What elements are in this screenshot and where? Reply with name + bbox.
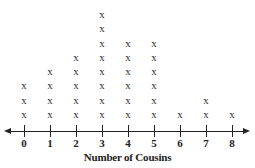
x-mark-icon: x [44,80,56,91]
x-mark-icon: x [122,80,134,91]
tick-7 [206,125,207,137]
x-mark-icon: x [200,95,212,106]
x-mark-icon: x [96,52,108,63]
x-mark-icon: x [122,95,134,106]
x-mark-icon: x [148,66,160,77]
tick-2 [76,125,77,137]
tick-label-1: 1 [43,137,57,149]
x-mark-icon: x [122,38,134,49]
x-mark-icon: x [96,66,108,77]
x-mark-icon: x [226,109,238,120]
x-mark-icon: x [148,52,160,63]
tick-4 [128,125,129,137]
tick-6 [180,125,181,137]
x-mark-icon: x [96,109,108,120]
x-mark-icon: x [18,80,30,91]
tick-label-0: 0 [17,137,31,149]
x-mark-icon: x [148,80,160,91]
x-mark-icon: x [174,109,186,120]
x-mark-icon: x [148,38,160,49]
dot-plot: xxxxxxxxxxxxxxxxxxxxxxxxxxxxxxxxxxxx 012… [0,0,255,168]
x-mark-icon: x [96,38,108,49]
x-mark-icon: x [122,52,134,63]
x-mark-icon: x [18,95,30,106]
tick-label-8: 8 [225,137,239,149]
x-mark-icon: x [96,23,108,34]
x-mark-icon: x [70,52,82,63]
tick-label-6: 6 [173,137,187,149]
x-mark-icon: x [70,95,82,106]
x-mark-icon: x [44,66,56,77]
x-mark-icon: x [96,9,108,20]
tick-3 [102,125,103,137]
tick-label-2: 2 [69,137,83,149]
x-mark-icon: x [122,109,134,120]
x-mark-icon: x [122,66,134,77]
x-axis-label: Number of Cousins [0,151,255,163]
x-mark-icon: x [70,109,82,120]
tick-label-7: 7 [199,137,213,149]
arrow-left-icon [4,128,11,134]
x-mark-icon: x [148,95,160,106]
x-mark-icon: x [148,109,160,120]
x-mark-icon: x [70,80,82,91]
tick-5 [154,125,155,137]
x-mark-icon: x [96,95,108,106]
tick-1 [50,125,51,137]
number-line [7,131,245,132]
arrow-right-icon [243,128,250,134]
tick-label-5: 5 [147,137,161,149]
x-mark-icon: x [96,80,108,91]
x-mark-icon: x [44,109,56,120]
x-mark-icon: x [70,66,82,77]
x-mark-icon: x [18,109,30,120]
tick-0 [24,125,25,137]
x-mark-icon: x [44,95,56,106]
x-mark-icon: x [200,109,212,120]
tick-label-3: 3 [95,137,109,149]
tick-8 [232,125,233,137]
tick-label-4: 4 [121,137,135,149]
